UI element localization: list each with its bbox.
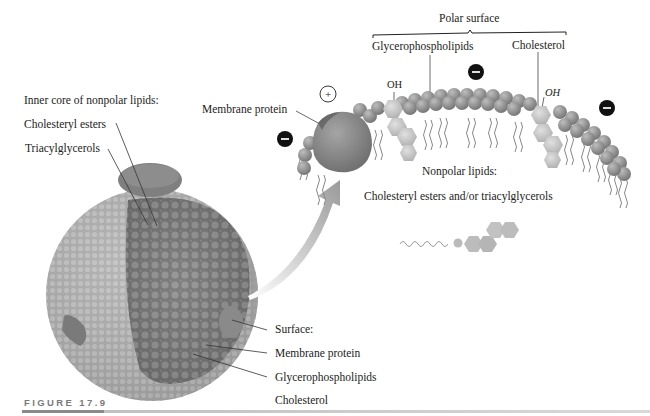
label-triacylglycerols: Triacylglycerols — [25, 143, 100, 155]
caption-rule-accent — [22, 410, 104, 413]
oh-label-glycerophospholipid: OH — [387, 80, 402, 91]
surface-heading: Surface: — [275, 324, 313, 336]
caption-rule — [22, 410, 650, 413]
core-heading: Inner core of nonpolar lipids: — [24, 95, 159, 107]
nonpolar-heading: Nonpolar lipids: — [422, 166, 497, 178]
cholesteryl-ester-molecule — [400, 222, 519, 252]
svg-text:+: + — [325, 88, 331, 100]
polar-surface-label: Polar surface — [439, 13, 499, 25]
label-surface-glycerophospholipids: Glycerophospholipids — [275, 372, 377, 384]
label-cholesteryl-esters: Cholesteryl esters — [24, 119, 106, 131]
polar-surface-bracket — [373, 30, 566, 38]
cholesterol-label: Cholesterol — [512, 40, 565, 52]
glycerophospholipids-label: Glycerophospholipids — [372, 41, 474, 53]
label-surface-membrane-protein: Membrane protein — [275, 348, 360, 360]
oh-label-cholesterol: OH — [545, 88, 560, 99]
label-surface-cholesterol: Cholesterol — [275, 395, 328, 407]
membrane-protein-label: Membrane protein — [202, 104, 287, 116]
zoom-arrow — [248, 180, 340, 300]
nonpolar-items: Cholesteryl esters and/or triacylglycero… — [364, 191, 553, 203]
lipoprotein-sphere — [46, 163, 258, 401]
figure-caption: FIGURE 17.9 — [24, 397, 107, 408]
